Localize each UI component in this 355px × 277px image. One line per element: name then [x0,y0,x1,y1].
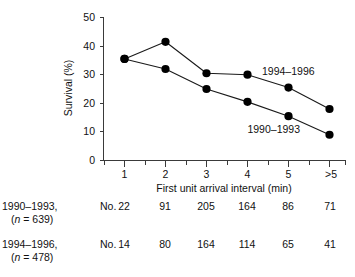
y-tick-label-30: 30 [83,68,95,80]
row-sample-size: (n = 478) [2,251,98,264]
data-point [284,112,292,120]
y-tick-label-10: 10 [83,125,95,137]
count-cell: 71 [313,200,347,213]
y-tick-label-40: 40 [83,40,95,52]
count-cell: 114 [230,238,264,251]
count-cell: 164 [230,200,264,213]
count-cell: 14 [107,238,141,251]
series-label-1990-1993: 1990–1993 [247,123,300,135]
row-sample-size: (n = 639) [2,213,98,226]
x-tick-label-4: 4 [245,168,251,180]
figure: 0 10 20 30 40 50 Survival (%) 1 2 3 4 [0,0,355,195]
count-cell: 91 [148,200,182,213]
row-period-years: 1990–1993, [2,200,57,212]
data-point [120,55,128,63]
data-point [202,85,210,93]
x-tick-label-2: 2 [163,168,169,180]
row-period-years: 1994–1996, [2,238,57,250]
y-axis-title: Survival (%) [62,60,74,117]
data-point [243,71,251,79]
x-tick-label-1: 1 [122,168,128,180]
count-cell: 205 [189,200,223,213]
count-cell: 164 [189,238,223,251]
data-point [161,65,169,73]
x-tick-label-5: 5 [286,168,292,180]
y-tick-label-20: 20 [83,97,95,109]
counts-table: 1990–1993, (n = 639) No. 22 91 205 164 8… [0,198,355,274]
data-point [284,83,292,91]
survival-line-chart: 0 10 20 30 40 50 Survival (%) 1 2 3 4 [0,0,355,195]
count-cell: 80 [148,238,182,251]
count-cell: 22 [107,200,141,213]
count-cell: 86 [271,200,305,213]
y-axis-ticks [100,18,104,161]
data-point [161,38,169,46]
count-cell: 65 [271,238,305,251]
count-cell: 41 [313,238,347,251]
data-point [325,105,333,113]
data-point [325,131,333,139]
y-tick-label-0: 0 [89,154,95,166]
data-point [243,98,251,106]
row-period-label: 1990–1993, (n = 639) [2,200,98,227]
table-row: 1990–1993, (n = 639) No. 22 91 205 164 8… [0,198,355,236]
x-tick-label-gt5: >5 [325,168,337,180]
row-period-label: 1994–1996, (n = 478) [2,238,98,265]
x-axis-ticks [105,161,346,167]
x-axis-title: First unit arrival interval (min) [156,182,291,194]
table-row: 1994–1996, (n = 478) No. 14 80 164 114 6… [0,236,355,274]
x-tick-label-3: 3 [204,168,210,180]
series-label-1994-1996: 1994–1996 [262,65,315,77]
data-point [202,69,210,77]
y-tick-label-50: 50 [83,11,95,23]
